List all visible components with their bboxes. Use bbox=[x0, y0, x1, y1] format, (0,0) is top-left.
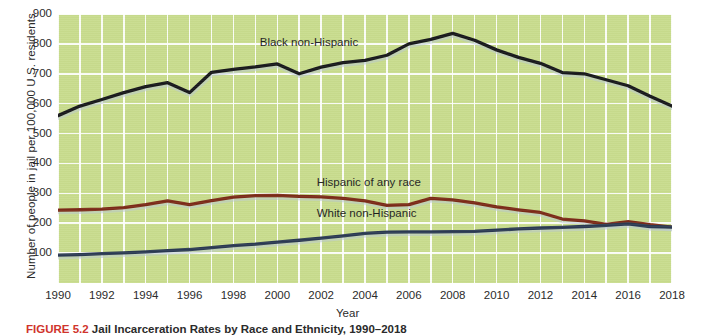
x-tick-label: 1990 bbox=[36, 289, 80, 301]
x-tick-label: 1996 bbox=[168, 289, 212, 301]
y-tick-label: 500 bbox=[12, 127, 52, 139]
series-lines bbox=[58, 14, 672, 283]
x-tick-label: 1994 bbox=[124, 289, 168, 301]
y-tick-label: 200 bbox=[12, 216, 52, 228]
figure-container: Number of people in jail per 100,000 U.S… bbox=[0, 0, 702, 335]
x-tick-label: 2008 bbox=[431, 289, 475, 301]
series-line-1 bbox=[58, 33, 672, 115]
x-axis-title: Year bbox=[336, 307, 396, 319]
plot-area: Black non-HispanicHispanic of any raceWh… bbox=[58, 14, 672, 283]
x-tick-label: 1992 bbox=[80, 289, 124, 301]
figure-number: FIGURE 5.2 bbox=[26, 323, 89, 335]
x-tick-label: 2010 bbox=[475, 289, 519, 301]
x-tick-label: 2018 bbox=[650, 289, 694, 301]
y-tick-label: 800 bbox=[12, 37, 52, 49]
series-line-shadow bbox=[59, 35, 672, 117]
x-tick-label: 2002 bbox=[299, 289, 343, 301]
series-label-1: Black non-Hispanic bbox=[260, 36, 358, 48]
y-tick-label: 400 bbox=[12, 156, 52, 168]
x-tick-label: 2012 bbox=[518, 289, 562, 301]
y-tick-label: 700 bbox=[12, 67, 52, 79]
x-tick-label: 2016 bbox=[606, 289, 650, 301]
series-label-2: Hispanic of any race bbox=[317, 176, 421, 188]
y-tick-label: 300 bbox=[12, 186, 52, 198]
y-tick-label: 600 bbox=[12, 97, 52, 109]
figure-caption-text: Jail Incarceration Rates by Race and Eth… bbox=[92, 323, 407, 335]
y-tick-label: 100 bbox=[12, 246, 52, 258]
y-tick-label: 900 bbox=[12, 7, 52, 19]
figure-caption: FIGURE 5.2 Jail Incarceration Rates by R… bbox=[26, 323, 686, 335]
x-tick-label: 2004 bbox=[343, 289, 387, 301]
x-tick-label: 2000 bbox=[255, 289, 299, 301]
series-label-3: White non-Hispanic bbox=[317, 207, 417, 219]
x-tick-label: 1998 bbox=[211, 289, 255, 301]
x-tick-label: 2006 bbox=[387, 289, 431, 301]
x-tick-label: 2014 bbox=[562, 289, 606, 301]
